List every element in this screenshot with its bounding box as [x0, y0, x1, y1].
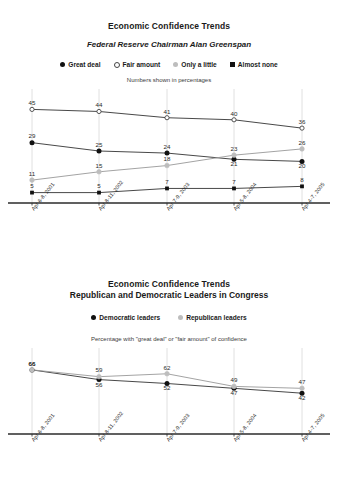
data-point-label: 44 — [96, 101, 103, 108]
data-point-label: 59 — [96, 366, 103, 373]
panel1-note: Numbers shown in percentages — [0, 76, 338, 85]
gray-circle-icon — [173, 62, 178, 67]
data-point-marker — [97, 170, 102, 175]
data-point-marker — [30, 191, 34, 195]
data-point-label: 7 — [232, 178, 236, 185]
data-point-marker — [97, 191, 101, 195]
panel1-plot-area: 29252421204544414036111518232655778 Apr … — [0, 85, 338, 215]
data-point-label: 45 — [29, 99, 36, 106]
data-point-label: 56 — [96, 381, 103, 388]
data-point-label: 42 — [299, 394, 306, 401]
panel1-svg: 29252421204544414036111518232655778 — [0, 85, 338, 215]
panel1-title: Economic Confidence Trends — [0, 20, 338, 32]
data-point-label: 47 — [231, 389, 238, 396]
panel2-plot-area: 66565247426659624947 Apr 6-8, 2001Apr 8-… — [0, 344, 338, 456]
panel2-legend: Democratic leaders Republican leaders — [0, 313, 338, 322]
data-point-label: 40 — [231, 110, 238, 117]
open-circle-icon — [114, 62, 120, 68]
data-point-label: 47 — [299, 378, 306, 385]
data-point-marker — [300, 184, 304, 188]
gray-circle-icon — [178, 315, 183, 320]
legend-label: Fair amount — [123, 60, 161, 69]
data-point-marker — [165, 187, 169, 191]
data-point-label: 20 — [299, 162, 306, 169]
data-point-label: 62 — [164, 364, 171, 371]
legend-label: Only a little — [181, 60, 217, 69]
data-point-marker — [97, 374, 102, 379]
data-point-label: 24 — [164, 143, 171, 150]
legend-item-democratic-leaders: Democratic leaders — [91, 313, 160, 322]
legend-item-great-deal: Great deal — [60, 60, 100, 69]
panel1-subtitle: Federal Reserve Chairman Alan Greenspan — [0, 39, 338, 51]
data-point-label: 18 — [164, 155, 171, 162]
data-point-label: 29 — [29, 132, 36, 139]
data-point-label: 52 — [164, 384, 171, 391]
legend-label: Democratic leaders — [99, 313, 160, 322]
chart-panel-congress: Economic Confidence Trends Republican an… — [0, 262, 338, 501]
data-point-label: 5 — [30, 182, 34, 189]
data-point-marker — [30, 368, 35, 373]
panel1-legend: Great deal Fair amount Only a little Alm… — [0, 60, 338, 69]
legend-label: Republican leaders — [186, 313, 246, 322]
black-square-icon — [230, 62, 235, 67]
panel2-title: Economic Confidence Trends — [0, 278, 338, 290]
data-point-marker — [30, 140, 35, 145]
legend-label: Almost none — [238, 60, 278, 69]
data-point-marker — [97, 149, 102, 154]
legend-item-fair-amount: Fair amount — [114, 60, 161, 69]
data-point-label: 8 — [300, 176, 304, 183]
data-point-marker — [232, 118, 236, 122]
filled-circle-icon — [60, 62, 65, 67]
legend-label: Great deal — [68, 60, 100, 69]
data-point-marker — [300, 386, 305, 391]
chart-panel-greenspan: Economic Confidence Trends Federal Reser… — [0, 0, 338, 262]
data-point-label: 26 — [299, 139, 306, 146]
panel2-subtitle: Republican and Democratic Leaders in Con… — [0, 290, 338, 301]
data-point-marker — [232, 153, 237, 158]
legend-item-almost-none: Almost none — [230, 60, 278, 69]
data-point-label: 11 — [29, 170, 36, 177]
data-point-label: 66 — [29, 360, 36, 367]
data-point-label: 23 — [231, 145, 238, 152]
data-point-marker — [165, 116, 169, 120]
data-point-marker — [165, 371, 170, 376]
data-point-marker — [165, 163, 170, 168]
data-point-label: 41 — [164, 108, 171, 115]
data-point-label: 25 — [96, 141, 103, 148]
data-point-label: 36 — [299, 118, 306, 125]
data-point-marker — [97, 109, 101, 113]
legend-item-only-a-little: Only a little — [173, 60, 217, 69]
data-point-label: 5 — [97, 182, 101, 189]
data-point-label: 49 — [231, 376, 238, 383]
data-point-label: 21 — [231, 160, 238, 167]
data-point-marker — [300, 147, 305, 152]
chart-page: Economic Confidence Trends Federal Reser… — [0, 0, 338, 501]
data-point-label: 7 — [165, 178, 169, 185]
panel2-note: Percentage with "great deal" or "fair am… — [0, 335, 338, 344]
filled-circle-icon — [91, 315, 96, 320]
data-point-marker — [300, 126, 304, 130]
data-point-marker — [232, 384, 237, 389]
data-point-marker — [30, 107, 34, 111]
legend-item-republican-leaders: Republican leaders — [178, 313, 246, 322]
data-point-marker — [232, 187, 236, 191]
data-point-label: 15 — [96, 162, 103, 169]
